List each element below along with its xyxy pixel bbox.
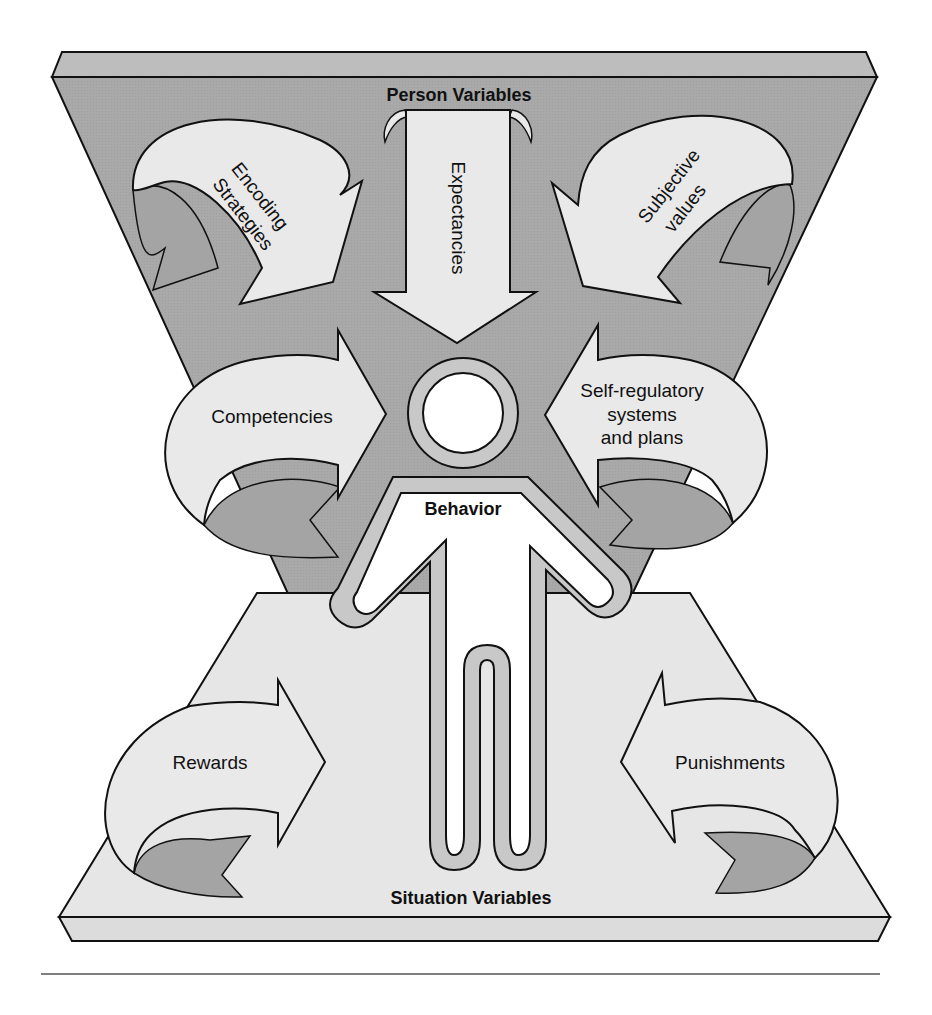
self-regulatory-label-line3: and plans	[601, 427, 683, 448]
person-variables-title: Person Variables	[386, 85, 531, 105]
competencies-label: Competencies	[211, 406, 332, 427]
self-regulatory-label-line1: Self-regulatory	[580, 380, 704, 401]
person-situation-diagram: Encoding Strategies Expectancies Subject…	[0, 0, 932, 1015]
rewards-label: Rewards	[173, 752, 248, 773]
situation-variables-title: Situation Variables	[390, 888, 551, 908]
expectancies-label: Expectancies	[448, 161, 469, 274]
behavior-label: Behavior	[424, 499, 501, 519]
self-regulatory-label-line2: systems	[607, 404, 677, 425]
punishments-label: Punishments	[675, 752, 785, 773]
